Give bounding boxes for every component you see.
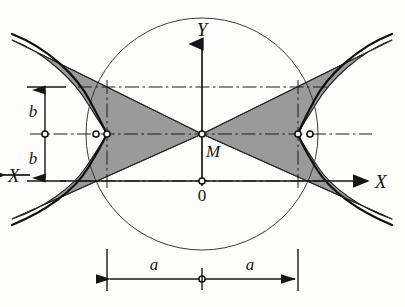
x-axis-label-right: X <box>374 171 388 192</box>
dimension-b-upper-label: b <box>29 102 38 121</box>
dimension-a-right-label: a <box>246 255 255 274</box>
point-marker-center-M <box>199 131 205 137</box>
point-marker-focus-right <box>307 131 313 137</box>
y-axis-label: Y <box>197 19 210 40</box>
point-marker-vertex-right <box>295 131 301 137</box>
origin-point-label: 0 <box>198 186 207 205</box>
x-axis-label-left: X <box>7 165 21 186</box>
point-marker-dim-b-mid <box>42 131 48 137</box>
hyperbola-diagram: Y X X M 0 b b a a <box>0 0 405 307</box>
point-marker-origin-0 <box>199 178 205 184</box>
point-marker-focus-left <box>93 131 99 137</box>
dimension-a-left-label: a <box>150 255 159 274</box>
point-marker-vertex-left <box>104 131 110 137</box>
dimension-a <box>107 249 298 291</box>
center-point-label: M <box>205 142 221 161</box>
figure-root: Y X X M 0 b b a a <box>0 0 405 307</box>
dimension-b-lower-label: b <box>29 149 38 168</box>
